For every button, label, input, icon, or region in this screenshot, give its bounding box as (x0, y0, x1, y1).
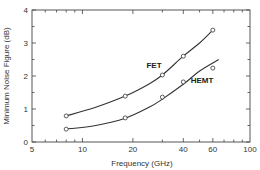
series-label: FET (146, 61, 161, 70)
x-tick-label: 60 (208, 145, 217, 154)
fit-curve (66, 30, 213, 116)
x-tick-label: 10 (78, 145, 87, 154)
data-point (123, 116, 127, 120)
data-point (160, 73, 164, 77)
plot-frame (32, 10, 250, 142)
series-fet: FET (64, 28, 215, 118)
x-tick-label: 5 (30, 145, 35, 154)
data-point (64, 114, 68, 118)
plot-axes: 01234510204060100 (24, 6, 258, 154)
data-point (160, 95, 164, 99)
x-axis-label: Frequency (GHz) (111, 159, 173, 168)
series-hemt: HEMT (64, 60, 218, 132)
data-point (181, 54, 185, 58)
data-point (64, 127, 68, 131)
y-tick-label: 3 (24, 39, 29, 48)
series-label: HEMT (191, 76, 214, 85)
x-tick-label: 40 (179, 145, 188, 154)
y-tick-label: 0 (24, 138, 29, 147)
y-axis-label: Minimum Noise Figure (dB) (2, 27, 11, 125)
noise-figure-chart: 01234510204060100 FETHEMT Frequency (GHz… (0, 0, 260, 170)
data-point (181, 80, 185, 84)
data-point (211, 28, 215, 32)
plot-series: FETHEMT (64, 28, 218, 131)
data-point (211, 66, 215, 70)
x-tick-label: 100 (243, 145, 257, 154)
data-point (123, 94, 127, 98)
fit-curve (66, 60, 219, 130)
y-tick-label: 2 (24, 72, 29, 81)
y-tick-label: 4 (24, 6, 29, 15)
y-tick-label: 1 (24, 105, 29, 114)
x-tick-label: 20 (128, 145, 137, 154)
